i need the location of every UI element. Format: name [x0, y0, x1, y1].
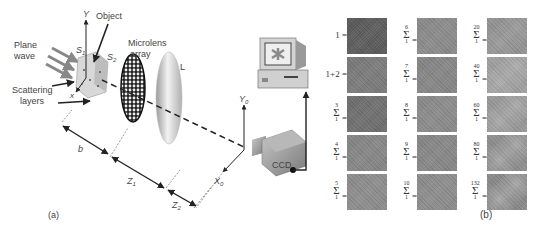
sum-label: 1+2 =: [325, 70, 347, 79]
speckle-image-tile: [347, 135, 387, 171]
speckle-image-tile: [417, 135, 457, 171]
microlens-array: [121, 54, 145, 122]
label-scattering: Scattering: [12, 85, 53, 95]
label-y0: Y0: [239, 94, 249, 105]
scattering-layers-block: [76, 52, 108, 98]
sum-label: 10Σ1 =: [395, 180, 417, 201]
panel-a-labels: Y Object Plane wave S1 S2 Microlens arra…: [12, 9, 292, 220]
label-z2: Z2: [171, 200, 182, 211]
speckle-image-tile: [487, 96, 527, 132]
x0-axis-arrow: [223, 150, 244, 172]
sum-label: 80Σ1 =: [465, 141, 487, 162]
caption-b: (b): [480, 209, 492, 220]
label-x0: X0: [213, 176, 224, 187]
label-plane: Plane: [14, 40, 37, 50]
label-wave: wave: [13, 51, 35, 61]
speckle-image-tile: [347, 96, 387, 132]
dimension-z1: [112, 157, 164, 188]
sum-label: 20Σ1 =: [465, 24, 487, 45]
dimension-b: [63, 126, 108, 154]
speckle-image-tile: [417, 174, 457, 210]
sum-label: 6Σ1 =: [395, 24, 417, 45]
sum-label: 8Σ1 =: [395, 102, 417, 123]
sum-label: 5Σ1 =: [325, 180, 347, 201]
speckle-sum-cell: 6Σ1 =: [395, 18, 435, 54]
sum-label: 3Σ1 =: [325, 102, 347, 123]
speckle-sum-cell: 10Σ1 =: [395, 174, 435, 210]
speckle-sum-cell: 9Σ1 =: [395, 135, 435, 171]
sum-label: 1 =: [325, 31, 347, 40]
speckle-sum-cell: 4Σ1 =: [325, 135, 365, 171]
label-layers: layers: [20, 96, 45, 106]
sum-label: 40Σ1 =: [465, 63, 487, 84]
speckle-image-tile: [487, 57, 527, 93]
label-z1: Z1: [126, 176, 136, 187]
speckle-sum-cell: 1 =: [325, 18, 365, 54]
speckle-image-tile: [347, 57, 387, 93]
speckle-image-tile: [417, 57, 457, 93]
label-ccd: CCD: [272, 160, 292, 170]
speckle-sum-cell: 5Σ1 =: [325, 174, 365, 210]
speckle-image-tile: [347, 18, 387, 54]
label-s1: S1: [76, 45, 85, 56]
speckle-sum-cell: 40Σ1 =: [465, 57, 505, 93]
speckle-image-tile: [487, 174, 527, 210]
sum-label: 9Σ1 =: [395, 141, 417, 162]
speckle-sum-cell: 132Σ1 =: [465, 174, 505, 210]
caption-a: (a): [48, 210, 59, 220]
sum-label: 4Σ1 =: [325, 141, 347, 162]
panel-b-image-grid: 1 =1+2 =3Σ1 =4Σ1 =5Σ1 =6Σ1 =7Σ1 =8Σ1 =9Σ…: [325, 18, 537, 218]
speckle-sum-cell: 8Σ1 =: [395, 96, 435, 132]
scattering-arrow-2: [58, 101, 90, 103]
speckle-sum-cell: 1+2 =: [325, 57, 365, 93]
label-s2: S2: [107, 52, 117, 63]
label-y: Y: [83, 9, 90, 19]
dimension-lines: [62, 110, 212, 208]
speckle-sum-cell: 7Σ1 =: [395, 57, 435, 93]
lens-l: [156, 52, 182, 144]
plane-wave-arrows: [46, 48, 78, 78]
label-lens-l: L: [180, 62, 185, 72]
speckle-image-tile: [487, 135, 527, 171]
speckle-image-tile: [487, 18, 527, 54]
speckle-sum-cell: 3Σ1 =: [325, 96, 365, 132]
label-array: array: [130, 49, 151, 59]
speckle-sum-cell: 60Σ1 =: [465, 96, 505, 132]
sum-label: 60Σ1 =: [465, 102, 487, 123]
speckle-image-tile: [417, 18, 457, 54]
speckle-sum-cell: 80Σ1 =: [465, 135, 505, 171]
label-object: Object: [96, 11, 123, 21]
label-microlens: Microlens: [128, 38, 167, 48]
speckle-sum-cell: 20Σ1 =: [465, 18, 505, 54]
speckle-image-tile: [417, 96, 457, 132]
x0-guide: [196, 168, 226, 208]
sum-label: 7Σ1 =: [395, 63, 417, 84]
sum-label: 132Σ1 =: [465, 180, 487, 201]
speckle-image-tile: [347, 174, 387, 210]
scattering-arrow-1: [52, 82, 74, 86]
label-x: x: [69, 91, 75, 100]
label-b: b: [78, 144, 83, 154]
computer-icon: [258, 38, 308, 88]
